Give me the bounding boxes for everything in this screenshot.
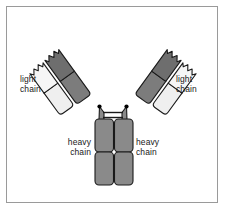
stem-right-heavy-chain-lower-domain	[115, 152, 134, 185]
stem-left-heavy-chain-upper-domain	[95, 119, 114, 152]
hinge-joint-dot-right	[124, 104, 128, 108]
label-heavy-chain-right: heavy chain	[136, 137, 159, 157]
hinge-joint-dot-left	[97, 104, 101, 108]
antibody-structure-figure	[0, 0, 226, 211]
label-heavy-chain-left: heavy chain	[57, 137, 91, 157]
label-light-chain-right: light chain	[176, 74, 197, 94]
stem-right-heavy-chain-upper-domain	[115, 119, 134, 152]
diagram-canvas: light chain light chain heavy chain heav…	[0, 0, 226, 211]
label-light-chain-left: light chain	[20, 74, 41, 94]
stem-left-heavy-chain-lower-domain	[95, 152, 114, 185]
